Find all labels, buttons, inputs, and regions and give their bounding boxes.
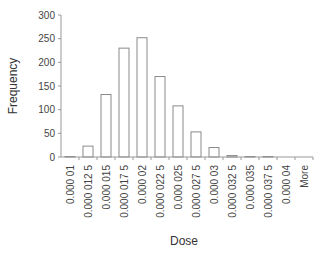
histogram-bar: [101, 95, 111, 157]
histogram-chart: 050100150200250300 0.000 010.000 012 50.…: [0, 0, 328, 258]
x-tick-label: 0.000 01: [65, 165, 76, 204]
histogram-bar: [137, 38, 147, 157]
y-tick-label: 150: [38, 81, 55, 92]
x-tick-label: 0.000 02: [137, 165, 148, 204]
y-tick-label: 0: [49, 152, 55, 163]
histogram-bar: [155, 77, 165, 157]
y-tick-label: 200: [38, 57, 55, 68]
x-tick-label: 0.000 012 5: [83, 165, 94, 218]
x-tick-label: 0.000 04: [281, 165, 292, 204]
y-tick-label: 50: [44, 128, 56, 139]
x-axis-ticks: 0.000 010.000 012 50.000 0150.000 017 50…: [65, 157, 314, 218]
histogram-bar: [83, 146, 93, 157]
x-tick-label: 0.000 035: [245, 165, 256, 210]
x-tick-label: 0.000 022 5: [155, 165, 166, 218]
y-tick-label: 300: [38, 10, 55, 21]
y-axis-ticks: 050100150200250300: [38, 10, 61, 163]
x-tick-label: 0.000 025: [173, 165, 184, 210]
bars: [65, 38, 273, 157]
x-tick-label: 0.000 027 5: [191, 165, 202, 218]
y-axis-title: Frequency: [6, 58, 20, 115]
x-tick-label: 0.000 037 5: [263, 165, 274, 218]
x-tick-label: 0.000 017 5: [119, 165, 130, 218]
x-tick-label: More: [299, 165, 310, 188]
x-tick-label: 0.000 015: [101, 165, 112, 210]
x-tick-label: 0.000 032 5: [227, 165, 238, 218]
histogram-bar: [209, 148, 219, 157]
histogram-bar: [173, 106, 183, 157]
y-tick-label: 100: [38, 104, 55, 115]
x-axis-title: Dose: [170, 234, 198, 248]
histogram-bar: [119, 48, 129, 157]
histogram-bar: [191, 132, 201, 157]
y-tick-label: 250: [38, 33, 55, 44]
x-tick-label: 0.000 03: [209, 165, 220, 204]
